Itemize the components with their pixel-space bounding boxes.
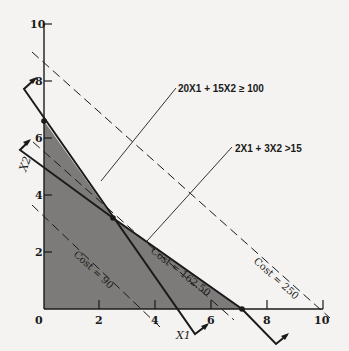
corner-point xyxy=(239,306,245,312)
x-tick-2: 2 xyxy=(95,314,103,327)
x1-axis-label: X1 xyxy=(175,329,191,342)
origin-tick: 0 xyxy=(35,314,43,327)
corner-point xyxy=(41,118,47,124)
y-tick-8: 8 xyxy=(35,75,43,88)
x-tick-8: 8 xyxy=(263,314,271,327)
shaded-region xyxy=(44,121,242,309)
y-tick-4: 4 xyxy=(35,189,43,202)
y-tick-6: 6 xyxy=(35,132,43,145)
y-tick-10: 10 xyxy=(30,18,46,31)
linear-programming-chart: 10 8 6 4 2 0 2 4 6 8 10 20X1 + 15X2 ≥ 10… xyxy=(0,0,349,351)
leader-line-constraint2 xyxy=(147,147,232,241)
constraint1-label: 20X1 + 15X2 ≥ 100 xyxy=(178,83,264,94)
cost-250-label: Cost = 250 xyxy=(252,255,301,301)
constraint2-label: 2X1 + 3X2 >15 xyxy=(235,143,302,154)
y-tick-2: 2 xyxy=(35,246,43,259)
corner-point xyxy=(110,215,116,221)
x-tick-6: 6 xyxy=(207,314,215,327)
leader-line-constraint1 xyxy=(101,88,176,181)
